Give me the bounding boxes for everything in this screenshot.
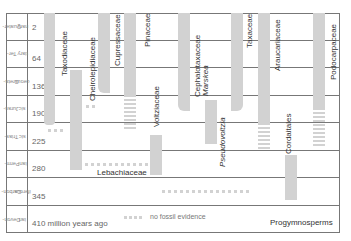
podocarpaceae-label: Podocarpaceae bbox=[329, 24, 338, 80]
no-fossil-legend-label: no fossil evidence bbox=[150, 213, 206, 220]
cordaitales-label: Cordaitales bbox=[284, 114, 293, 154]
marskea-label: Marskea bbox=[201, 65, 210, 96]
no-fossil-legend-swatch bbox=[124, 216, 144, 219]
period-carboniferous: Carbon-iferous bbox=[7, 177, 27, 205]
age-label: 2 bbox=[32, 23, 36, 32]
no-fossil-branch bbox=[86, 105, 98, 108]
age-label: 345 bbox=[32, 192, 45, 201]
age-label: 64 bbox=[32, 54, 41, 63]
period-tertiary: Ter-tiary bbox=[7, 40, 27, 67]
podocarpaceae-bar bbox=[313, 13, 325, 108]
period-boundary bbox=[6, 95, 340, 96]
progymnosperms-label: Progymnosperms bbox=[270, 218, 333, 227]
period-quaternary: Quater-nary bbox=[7, 13, 27, 40]
taxodiaceae-bar bbox=[44, 13, 55, 125]
period-devonian: Devon-ian bbox=[7, 205, 27, 233]
period-jurassic: Juras-sic bbox=[7, 95, 27, 122]
cupressaceae-label: Cupressaceae bbox=[113, 14, 122, 66]
cupressaceae-bar bbox=[98, 13, 110, 93]
age-label: 225 bbox=[32, 137, 45, 146]
period-triassic: Trias-sic bbox=[7, 122, 27, 150]
period-boundary bbox=[6, 205, 340, 206]
cheirolepidiaceae-label: Cheirolepidiaceae bbox=[88, 37, 97, 101]
voltziaceae-bar bbox=[150, 135, 162, 175]
period-boundary bbox=[6, 67, 340, 68]
no-fossil-branch bbox=[162, 190, 252, 193]
voltziaceae-label: Voltziaceae bbox=[152, 86, 161, 127]
cheirolepidiaceae-bar bbox=[70, 70, 82, 170]
araucariaceae-no-fossil bbox=[258, 123, 270, 151]
lebachiaceae-label: Lebachiaceae bbox=[97, 168, 147, 177]
podocarpaceae-no-fossil bbox=[313, 108, 325, 148]
pinaceae-label: Pinaceae bbox=[143, 14, 152, 47]
cordaitales-bar bbox=[285, 155, 297, 200]
pinaceae-no-fossil bbox=[124, 95, 136, 130]
araucariaceae-bar bbox=[258, 13, 270, 123]
pseudovoltzia-label: Pseudovoltzia bbox=[218, 117, 227, 167]
pinaceae-bar bbox=[124, 13, 136, 95]
period-column-divider bbox=[27, 13, 28, 233]
taxaceae-label: Taxaceae bbox=[245, 14, 254, 48]
no-fossil-branch bbox=[48, 129, 66, 132]
no-fossil-branch bbox=[85, 163, 150, 166]
taxodiaceae-label: Taxodiaceae bbox=[60, 31, 69, 76]
cephalotaxaceae-bar bbox=[178, 13, 190, 111]
araucariaceae-label: Araucariaceae bbox=[273, 19, 282, 71]
age-label: 280 bbox=[32, 164, 45, 173]
age-label: 410 million years ago bbox=[32, 219, 108, 228]
taxaceae-bar bbox=[231, 13, 243, 111]
period-permian: Perm-ian bbox=[7, 150, 27, 177]
period-boundary bbox=[6, 40, 340, 41]
marskea-bar bbox=[205, 100, 217, 144]
period-cretaceous: Creta-ceous bbox=[7, 67, 27, 95]
